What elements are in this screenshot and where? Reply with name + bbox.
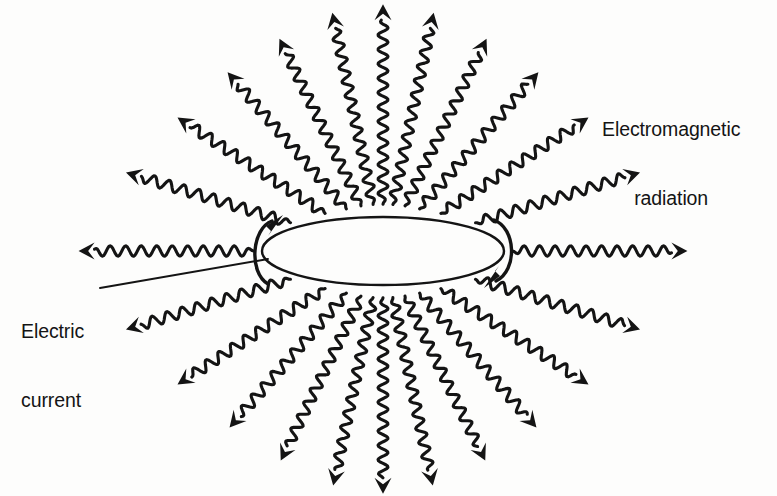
ray-wave [333,28,374,204]
ray-wave [378,20,388,204]
radiation-ray [375,4,392,204]
current-label-line2: current [21,389,84,412]
radiation-ray [126,278,290,333]
ray-wave [390,28,434,204]
radiation-ray [328,298,376,486]
ray-wave [192,289,325,377]
ray-arrowhead [328,468,345,485]
electric-current-label: Electric current [21,274,84,458]
ray-wave [378,298,388,478]
em-label-line2: radiation [602,187,740,210]
em-label-line1: Electromagnetic [602,118,740,141]
current-direction-arrows [255,215,512,288]
ray-wave [405,296,479,446]
ray-arrowhead [178,118,196,134]
current-loop-ellipse [262,217,504,285]
leader-line-group [100,259,268,288]
ray-arrowhead [375,478,392,494]
ray-wave [392,298,433,471]
current-arrow-right-arc [494,220,512,281]
ray-arrowhead [375,4,392,20]
ray-wave [405,52,482,205]
ray-wave [142,176,291,224]
radiation-ray [390,13,438,205]
ray-arrowhead [79,243,95,260]
ray-arrowhead [421,468,438,485]
radiation-ray [405,39,487,206]
ray-arrowhead [570,369,588,385]
ray-wave [441,125,574,213]
radiation-rays-group [79,4,688,494]
current-label-line1: Electric [21,320,84,343]
current-arrow-left-arc [255,221,272,284]
radiation-ray [375,298,392,494]
ray-wave [420,84,528,209]
radiation-ray [178,118,326,214]
ray-arrowhead [522,72,539,90]
radiation-ray [79,243,254,260]
electric-current-leader [100,259,268,288]
figure-root: Electromagnetic radiation Electric curre… [0,0,777,496]
current-loop-group [262,217,504,285]
ray-wave [95,246,254,256]
electromagnetic-radiation-label: Electromagnetic radiation [602,72,740,256]
radiation-ray [441,289,589,385]
ray-wave [476,278,625,326]
